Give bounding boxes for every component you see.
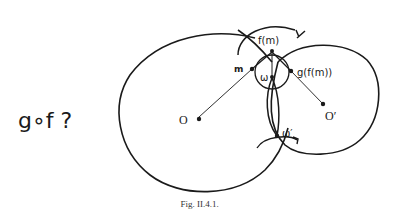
point-omega [270, 75, 274, 79]
point-g-f-m [289, 69, 293, 73]
label-omega-prime: ω′ [282, 128, 293, 139]
label-g-f-m: g(f(m)) [297, 67, 332, 78]
point-f-m [270, 49, 274, 53]
label-O-prime: O′ [325, 109, 337, 123]
point-O [197, 117, 201, 121]
question-label: g∘f ? [18, 108, 72, 133]
label-omega: ω [260, 72, 268, 83]
point-omega-prime [275, 134, 279, 138]
line-O-to-m [199, 69, 252, 117]
line-m-to-fm [252, 52, 272, 69]
figure-caption: Fig. II.4.1. [0, 199, 399, 209]
arrow-head-bottom [293, 137, 298, 144]
arrow-head-top [296, 30, 305, 38]
diagram-canvas: g∘f ? O O′ m f(m) g(f(m)) ω ω′ [0, 0, 399, 216]
label-O: O [179, 113, 188, 127]
point-O-prime [321, 102, 325, 106]
point-m [250, 67, 254, 71]
label-f-m: f(m) [258, 35, 279, 46]
label-m: m [234, 64, 243, 74]
